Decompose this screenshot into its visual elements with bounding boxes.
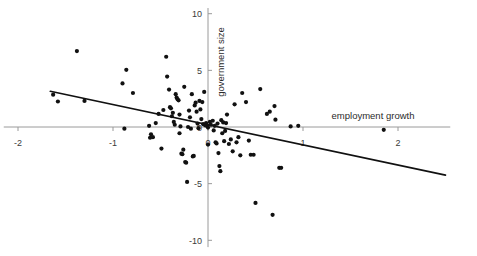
- plot-canvas: -2-10121050-5-10 employment growthgovern…: [0, 0, 477, 256]
- x-tick-label: 2: [395, 138, 400, 148]
- data-point: [206, 142, 210, 146]
- data-point: [182, 85, 186, 89]
- data-point: [231, 149, 235, 153]
- data-point: [187, 108, 191, 112]
- x-tick-label: -2: [14, 138, 22, 148]
- data-point: [289, 124, 293, 128]
- data-point: [279, 166, 283, 170]
- data-point: [229, 137, 233, 141]
- axis-titles-group: employment growthgovernment size: [215, 27, 414, 121]
- data-point: [244, 100, 248, 104]
- data-point: [234, 140, 238, 144]
- data-point: [180, 152, 184, 156]
- data-point: [225, 112, 229, 116]
- data-point: [216, 151, 220, 155]
- trend-line-group: [50, 91, 445, 175]
- y-tick-label: 10: [192, 9, 202, 19]
- data-point: [177, 112, 181, 116]
- data-point: [222, 139, 226, 143]
- data-point: [268, 110, 272, 114]
- data-point: [209, 123, 213, 127]
- data-point: [167, 88, 171, 92]
- data-point: [185, 180, 189, 184]
- data-point: [200, 100, 204, 104]
- data-point: [181, 148, 185, 152]
- data-point: [51, 93, 55, 97]
- y-tick-label: -10: [189, 236, 202, 246]
- data-point: [184, 161, 188, 165]
- data-point: [165, 74, 169, 78]
- data-point: [196, 126, 200, 130]
- data-point: [190, 92, 194, 96]
- data-point: [188, 115, 192, 119]
- data-point: [272, 104, 276, 108]
- data-point: [131, 91, 135, 95]
- data-point: [212, 128, 216, 132]
- data-point: [224, 121, 228, 125]
- data-point: [271, 213, 275, 217]
- data-point: [217, 164, 221, 168]
- data-point: [195, 110, 199, 114]
- data-point: [173, 123, 177, 127]
- data-point: [177, 131, 181, 135]
- x-tick-label: 1: [300, 138, 305, 148]
- data-point: [223, 129, 227, 133]
- y-tick-label: -5: [194, 179, 202, 189]
- trend-line: [50, 91, 445, 175]
- data-point: [75, 49, 79, 53]
- data-point: [154, 121, 158, 125]
- data-point: [157, 112, 161, 116]
- data-point: [214, 141, 218, 145]
- data-point: [227, 142, 231, 146]
- x-tick-label: -1: [109, 138, 117, 148]
- data-point: [273, 118, 277, 122]
- data-point: [164, 55, 168, 59]
- data-point: [147, 124, 151, 128]
- data-point: [176, 98, 180, 102]
- data-point: [82, 99, 86, 103]
- data-point: [171, 111, 175, 115]
- data-point: [198, 107, 202, 111]
- data-point: [122, 127, 126, 131]
- data-point: [247, 138, 251, 142]
- data-point: [161, 108, 165, 112]
- data-point: [178, 124, 182, 128]
- data-point: [151, 135, 155, 139]
- data-point: [252, 153, 256, 157]
- axes-group: -2-10121050-5-10: [4, 8, 451, 247]
- y-axis-title: government size: [215, 27, 226, 97]
- x-axis-title: employment growth: [332, 110, 415, 121]
- data-point: [56, 99, 60, 103]
- data-point: [238, 153, 242, 157]
- y-tick-label: 5: [197, 66, 202, 76]
- data-point: [215, 122, 219, 126]
- data-point: [124, 68, 128, 72]
- data-point: [159, 146, 163, 150]
- data-point: [169, 106, 173, 110]
- data-point: [192, 154, 196, 158]
- data-point: [233, 102, 237, 106]
- data-point: [120, 81, 124, 85]
- scatter-plot-figure: -2-10121050-5-10 employment growthgovern…: [0, 0, 477, 256]
- data-point: [240, 91, 244, 95]
- data-point: [382, 128, 386, 132]
- data-point: [296, 124, 300, 128]
- data-point: [195, 122, 199, 126]
- data-point: [199, 117, 203, 121]
- data-point: [236, 135, 240, 139]
- data-point: [218, 169, 222, 173]
- data-point: [194, 101, 198, 105]
- data-point: [258, 87, 262, 91]
- data-point: [211, 119, 215, 123]
- data-point: [202, 90, 206, 94]
- data-point: [253, 201, 257, 205]
- data-point: [189, 127, 193, 131]
